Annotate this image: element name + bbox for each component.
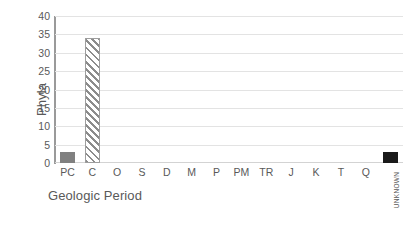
x-tick-label: PM <box>234 166 250 178</box>
x-tick-label: M <box>187 166 196 178</box>
bar-slot <box>229 16 254 163</box>
bar-slot <box>328 16 353 163</box>
x-label-slot: PM <box>229 166 254 224</box>
bar-slot <box>204 16 229 163</box>
x-tick-label: Q <box>362 166 370 178</box>
y-tick-label: 20 <box>26 85 50 95</box>
y-tick-label: 15 <box>26 103 50 113</box>
x-label-slot: K <box>304 166 329 224</box>
y-tick-label: 10 <box>26 121 50 131</box>
x-label-slot: Q <box>353 166 378 224</box>
x-tick-label: D <box>163 166 171 178</box>
x-label-slot: TR <box>254 166 279 224</box>
bar-slot <box>279 16 304 163</box>
bar-series <box>55 16 403 163</box>
x-tick-label: TR <box>259 166 273 178</box>
x-axis-title: Geologic Period <box>48 188 142 203</box>
bar-slot <box>353 16 378 163</box>
y-axis-tick-labels: 40 35 30 25 20 15 10 5 0 <box>26 16 50 163</box>
x-tick-label: K <box>313 166 320 178</box>
x-tick-label: PC <box>60 166 75 178</box>
x-label-slot: P <box>204 166 229 224</box>
x-tick-label: UNKNOWN <box>391 172 403 208</box>
bar-chart: Phyla 40 35 30 25 20 15 10 5 0 PCCOSDMPP… <box>0 0 412 227</box>
x-tick-label: P <box>213 166 220 178</box>
bar-slot <box>378 16 403 163</box>
y-tick-label: 40 <box>26 11 50 21</box>
x-label-slot: M <box>179 166 204 224</box>
bar[interactable] <box>383 152 398 163</box>
bar-slot <box>130 16 155 163</box>
x-tick-label: J <box>289 166 294 178</box>
bar[interactable] <box>60 152 75 163</box>
x-label-slot: T <box>328 166 353 224</box>
bar-slot <box>105 16 130 163</box>
bar-slot <box>55 16 80 163</box>
bar[interactable] <box>85 38 100 163</box>
bar-slot <box>154 16 179 163</box>
x-tick-label: T <box>338 166 344 178</box>
x-tick-label: S <box>138 166 145 178</box>
x-label-slot: UNKNOWN <box>378 166 403 224</box>
y-tick-label: 35 <box>26 29 50 39</box>
plot-area <box>55 16 403 163</box>
y-tick-label: 0 <box>26 158 50 168</box>
x-label-slot: D <box>154 166 179 224</box>
x-label-slot: J <box>279 166 304 224</box>
y-tick-label: 25 <box>26 66 50 76</box>
bar-slot <box>80 16 105 163</box>
bar-slot <box>254 16 279 163</box>
bar-slot <box>304 16 329 163</box>
x-tick-label: O <box>113 166 121 178</box>
y-tick-label: 5 <box>26 140 50 150</box>
bar-slot <box>179 16 204 163</box>
y-tick-label: 30 <box>26 48 50 58</box>
x-tick-label: C <box>88 166 96 178</box>
